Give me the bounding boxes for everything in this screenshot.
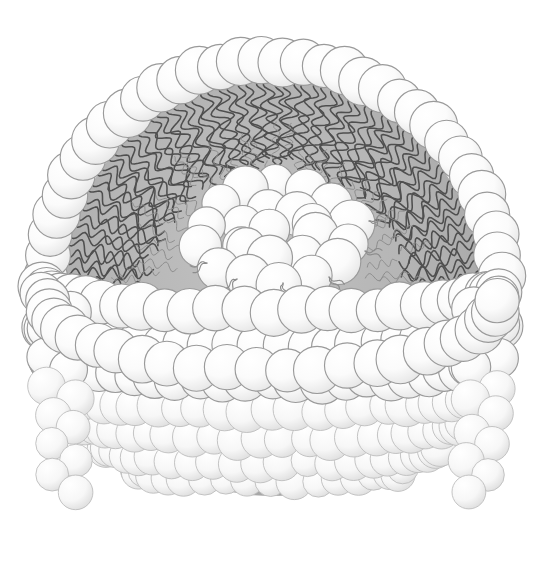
liposome-figure — [0, 0, 550, 575]
head-group-sphere — [475, 279, 519, 323]
head-group-sphere — [58, 475, 93, 510]
liposome-diagram — [0, 0, 550, 575]
head-group-sphere — [452, 475, 486, 509]
lower-bowl-rows — [18, 262, 523, 510]
